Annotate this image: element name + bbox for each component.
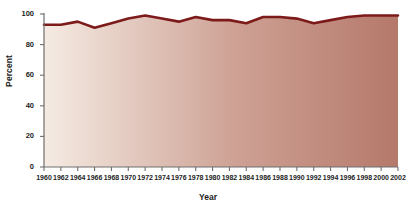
x-tick-label: 1972 (137, 174, 153, 181)
area-fill (44, 16, 398, 167)
x-tick-label: 2002 (390, 174, 406, 181)
y-tick-label: 100 (12, 9, 34, 18)
y-tick-label: 80 (12, 40, 34, 49)
x-tick-label: 1990 (289, 174, 305, 181)
x-tick-label: 1988 (272, 174, 288, 181)
x-tick-label: 1978 (188, 174, 204, 181)
x-tick-label: 1982 (222, 174, 238, 181)
y-tick-label: 0 (12, 162, 34, 171)
x-tick-label: 1996 (340, 174, 356, 181)
x-axis-title: Year (0, 192, 416, 202)
x-tick-label: 1966 (87, 174, 103, 181)
x-tick-label: 1968 (104, 174, 120, 181)
area-chart: Percent Year 020406080100 19601962196419… (0, 0, 416, 215)
y-tick-label: 40 (12, 101, 34, 110)
x-tick-label: 1992 (306, 174, 322, 181)
x-tick-label: 1976 (171, 174, 187, 181)
y-tick-label: 20 (12, 131, 34, 140)
plot-area (0, 0, 416, 215)
x-tick-label: 1986 (255, 174, 271, 181)
x-tick-label: 1994 (323, 174, 339, 181)
x-tick-label: 1960 (36, 174, 52, 181)
x-tick-label: 1974 (154, 174, 170, 181)
x-tick-label: 1964 (70, 174, 86, 181)
x-tick-label: 1970 (120, 174, 136, 181)
y-tick-label: 60 (12, 70, 34, 79)
x-tick-label: 1962 (53, 174, 69, 181)
x-tick-label: 2000 (373, 174, 389, 181)
x-tick-label: 1984 (238, 174, 254, 181)
x-tick-label: 1998 (356, 174, 372, 181)
x-tick-label: 1980 (205, 174, 221, 181)
